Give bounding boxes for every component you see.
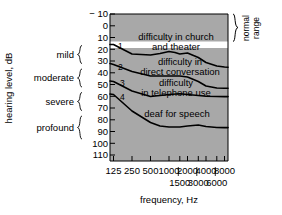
- y-tick-label: 10: [97, 32, 108, 43]
- x-tick-label: 8000: [214, 165, 235, 176]
- y-tick-label: 110: [93, 149, 108, 160]
- y-axis-title: hearing level, dB: [3, 53, 14, 124]
- severity-label-severe: severe: [45, 96, 74, 107]
- y-tick-label: 70: [97, 102, 108, 113]
- audiogram-svg: − 10 0 10 20 30 40 50 60 70 80 90 100 11…: [0, 0, 282, 215]
- y-tick-label: 40: [97, 67, 108, 78]
- severity-label-mild: mild: [57, 49, 74, 60]
- band-1-line2: and theater: [152, 41, 200, 52]
- y-tick-labels: − 10 0 10 20 30 40 50 60 70 80 90 100 11…: [89, 8, 108, 160]
- band-2-line2: direct conversation: [140, 66, 220, 77]
- severity-labels: mild moderate severe profound: [34, 49, 74, 134]
- y-tick-label: 20: [97, 44, 108, 55]
- normal-range-line2: range: [251, 17, 261, 39]
- y-tick-label: 100: [92, 138, 108, 149]
- x-axis-title: frequency, Hz: [140, 194, 198, 205]
- y-tick-label: − 10: [89, 8, 108, 19]
- x-tick-labels-lower: 1500 3000 6000: [169, 177, 227, 188]
- band-4-label: deaf for speech: [144, 108, 210, 119]
- y-tick-label: 0: [103, 20, 108, 31]
- y-tick-label: 90: [97, 126, 108, 137]
- curve-number-2: 2: [118, 62, 123, 72]
- y-tick-label: 80: [97, 114, 108, 125]
- band-4-line1: deaf for speech: [144, 108, 210, 119]
- severity-braces: [78, 46, 83, 140]
- y-tick-label: 50: [97, 79, 108, 90]
- brace-severe: [78, 93, 83, 111]
- brace-profound: [78, 116, 83, 139]
- x-tick-label: 6000: [206, 177, 227, 188]
- severity-label-moderate: moderate: [34, 72, 74, 83]
- audiogram-figure: − 10 0 10 20 30 40 50 60 70 80 90 100 11…: [0, 0, 282, 215]
- normal-range-brace: [233, 14, 238, 42]
- curve-number-3: 3: [120, 78, 125, 88]
- brace-moderate: [78, 69, 83, 87]
- x-tick-label: 125: [106, 165, 122, 176]
- x-tick-label: 500: [143, 165, 159, 176]
- curve-number-1: 1: [118, 41, 123, 51]
- y-tick-label: 30: [97, 55, 108, 66]
- severity-label-profound: profound: [36, 122, 74, 133]
- band-3-line2: in telephone use: [141, 87, 211, 98]
- y-tick-label: 60: [97, 91, 108, 102]
- curve-number-4: 4: [120, 92, 125, 102]
- brace-mild: [78, 46, 83, 64]
- x-tick-label: 250: [124, 165, 140, 176]
- normal-range-line1: normal: [241, 15, 251, 41]
